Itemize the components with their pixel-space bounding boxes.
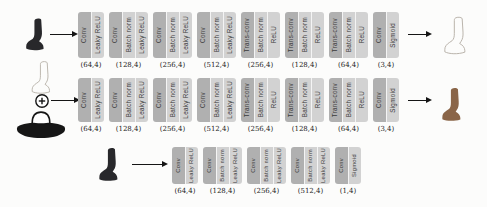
top-block-5: Trans-convBatch normReLU(256,4) [241,12,280,69]
layer-label: Batch norm [258,82,264,117]
dimensions-label: (256,4) [248,61,274,69]
layer-sigmoid: Sigmoid [386,12,399,58]
right-arrow-icon [408,100,430,101]
layer-conv: Conv [247,147,260,184]
layer-label: Leaky ReLU [95,81,101,119]
layer-batch-norm: Batch norm [210,12,223,58]
layer-leaky-relu: Leaky ReLU [273,147,286,184]
layer-label: Conv [251,158,257,173]
bottom-block-3: ConvBatch normLeaky ReLU(256,4) [247,147,286,195]
layer-label: Leaky ReLU [321,148,327,183]
top-block-3: ConvBatch normLeaky ReLU(256,4) [153,12,192,69]
layer-label: Conv [339,158,345,173]
layer-leaky-relu: Leaky ReLU [179,12,192,58]
top-block-2: ConvBatch normLeaky ReLU(128,4) [109,12,148,69]
dimensions-label: (1,4) [340,187,357,195]
layer-block: ConvLeaky ReLU [78,78,104,122]
layer-label: Conv [112,27,118,43]
right-arrow-icon [408,34,430,35]
dimensions-label: (128,4) [116,61,142,69]
layer-block: ConvSigmoid [335,147,361,184]
layer-label: Conv [156,92,162,108]
layer-trans-conv: Trans-conv [329,78,342,122]
hat-crown [32,112,50,124]
layer-conv: Conv [203,147,216,184]
dimensions-label: (3,4) [378,125,395,133]
dimensions-label: (64,4) [338,61,359,69]
layer-label: Conv [81,27,87,43]
layer-block: ConvLeaky ReLU [172,147,198,184]
layer-block: Trans-convBatch normReLU [241,78,280,122]
layer-label: Leaky ReLU [277,148,283,183]
layer-label: Batch norm [308,149,314,182]
layer-trans-conv: Trans-conv [241,12,254,58]
layer-label: Batch norm [264,149,270,182]
layer-block: Trans-convBatch normReLU [241,12,280,58]
layer-sigmoid: Sigmoid [348,147,361,184]
layer-block: ConvSigmoid [373,78,399,122]
layer-block: ConvBatch normLeaky ReLU [197,12,236,58]
layer-leaky-relu: Leaky ReLU [135,12,148,58]
layer-batch-norm: Batch norm [210,78,223,122]
top-network-blocks: ConvLeaky ReLU(64,4)ConvBatch normLeaky … [78,12,399,69]
layer-label: Batch norm [170,82,176,117]
layer-label: Leaky ReLU [95,16,101,54]
layer-label: Conv [376,92,382,108]
layer-label: Leaky ReLU [227,16,233,54]
layer-leaky-relu: Leaky ReLU [91,78,104,122]
dimensions-label: (256,4) [160,61,186,69]
layer-trans-conv: Trans-conv [241,78,254,122]
layer-label: Trans-conv [244,83,250,117]
layer-label: Leaky ReLU [139,81,145,119]
layer-label: Conv [176,158,182,173]
layer-trans-conv: Trans-conv [285,12,298,58]
layer-label: Batch norm [220,149,226,182]
layer-batch-norm: Batch norm [342,78,355,122]
layer-label: Leaky ReLU [183,81,189,119]
dimensions-label: (3,4) [378,61,395,69]
top-block-6: Trans-convBatch normReLU(128,4) [285,12,324,69]
layer-block: Trans-convBatch normReLU [285,12,324,58]
dimensions-label: (64,4) [338,125,359,133]
top-block-8: ConvSigmoid(3,4) [373,12,399,69]
layer-label: Conv [376,27,382,43]
top-output-boot-sketch [440,14,470,56]
layer-batch-norm: Batch norm [216,147,229,184]
layer-label: Batch norm [302,82,308,117]
layer-block: Trans-convBatch normReLU [285,78,324,122]
layer-label: Batch norm [258,17,264,52]
bottom-block-2: ConvBatch normLeaky ReLU(128,4) [203,147,242,195]
layer-conv: Conv [78,78,91,122]
dimensions-label: (512,4) [204,125,230,133]
bottom-block-1: ConvLeaky ReLU(64,4) [172,147,198,195]
layer-label: Trans-conv [288,83,294,117]
layer-batch-norm: Batch norm [254,78,267,122]
layer-conv: Conv [373,78,386,122]
layer-label: Leaky ReLU [227,81,233,119]
layer-batch-norm: Batch norm [260,147,273,184]
layer-label: Leaky ReLU [183,16,189,54]
layer-label: Leaky ReLU [189,148,195,183]
layer-batch-norm: Batch norm [304,147,317,184]
circle-plus-icon [34,93,50,109]
layer-batch-norm: Batch norm [298,12,311,58]
layer-block: ConvLeaky ReLU [78,12,104,58]
layer-label: Batch norm [126,17,132,52]
layer-conv: Conv [109,12,122,58]
layer-label: Conv [295,158,301,173]
layer-leaky-relu: Leaky ReLU [223,78,236,122]
bottom-input-boot-photo [95,146,122,182]
middle-input-hat-photo [16,110,66,140]
layer-relu: ReLU [267,78,280,122]
layer-batch-norm: Batch norm [122,78,135,122]
layer-leaky-relu: Leaky ReLU [185,147,198,184]
layer-block: ConvSigmoid [373,12,399,58]
dimensions-label: (128,4) [116,125,142,133]
right-arrow-icon [50,34,76,35]
layer-block: ConvBatch normLeaky ReLU [109,12,148,58]
middle-block-2: ConvBatch normLeaky ReLU(128,4) [109,78,148,133]
layer-leaky-relu: Leaky ReLU [179,78,192,122]
dimensions-label: (256,4) [248,125,274,133]
layer-label: Batch norm [214,17,220,52]
layer-label: Batch norm [302,17,308,52]
